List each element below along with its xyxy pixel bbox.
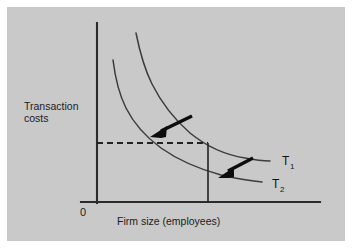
y-axis-label-line1: Transaction <box>24 100 79 112</box>
transaction-costs-diagram: Transaction costs Firm size (employees) … <box>0 0 352 248</box>
curve-label-t2: T 2 <box>272 177 285 194</box>
curve-label-t2-subscript: 2 <box>280 185 285 194</box>
shift-arrow-lower <box>218 158 253 178</box>
origin-label: 0 <box>80 206 86 218</box>
x-axis-label: Firm size (employees) <box>117 215 220 227</box>
curve-t1 <box>136 33 270 161</box>
curve-label-t1: T 1 <box>282 154 295 171</box>
curve-label-t1-subscript: 1 <box>290 162 295 171</box>
shift-arrow-upper <box>150 116 192 138</box>
curve-label-t2-base: T <box>272 177 280 191</box>
figure-root: Transaction costs Firm size (employees) … <box>0 0 352 248</box>
curve-label-t1-base: T <box>282 154 290 168</box>
y-axis-label-line2: costs <box>24 112 49 124</box>
